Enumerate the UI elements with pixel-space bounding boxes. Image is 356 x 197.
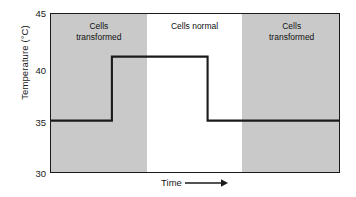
- trace-polyline: [51, 57, 340, 121]
- x-axis-group: Time: [50, 177, 340, 188]
- y-tick-label-35: 35: [20, 117, 46, 128]
- temperature-trace: [51, 14, 340, 173]
- y-tick-label-30: 30: [20, 168, 46, 179]
- x-axis-title: Time: [161, 177, 182, 188]
- y-tick-label-45: 45: [20, 8, 46, 19]
- temperature-step-chart: Temperature (°C) 45 40 35 30 Cells trans…: [0, 0, 356, 197]
- plot-area: Cells transformed Cells normal Cells tra…: [50, 13, 340, 173]
- right-arrow-icon: [185, 178, 229, 188]
- y-tick-label-40: 40: [20, 65, 46, 76]
